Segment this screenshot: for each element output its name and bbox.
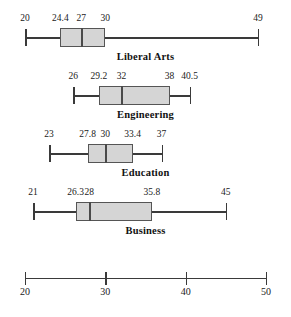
axis-tick	[105, 272, 106, 285]
median-line	[89, 202, 90, 221]
axis-tick-label: 50	[261, 286, 271, 297]
median-line	[121, 86, 122, 105]
iqr-box	[88, 144, 133, 163]
category-label-text: Education	[122, 167, 170, 178]
boxplot-panel: 2024.4273049Liberal Arts	[0, 13, 291, 65]
value-label: 35.8	[144, 187, 161, 198]
axis-tick-label: 40	[181, 286, 191, 297]
value-label: 49	[253, 13, 263, 24]
min-cap	[73, 87, 75, 104]
boxplot-panel: 2126.32835.845Business	[0, 187, 291, 239]
boxplot-panel: 2327.83033.437Education	[0, 129, 291, 181]
value-label: 27	[76, 13, 86, 24]
value-label: 23	[44, 129, 54, 140]
axis-tick	[186, 272, 187, 285]
category-label-text: Liberal Arts	[117, 51, 175, 62]
category-label: Business	[0, 225, 291, 236]
upper-whisker	[170, 95, 190, 97]
category-label: Engineering	[0, 109, 291, 120]
value-label: 20	[20, 13, 30, 24]
value-label: 40.5	[181, 71, 198, 82]
value-label: 24.4	[52, 13, 69, 24]
box-plot	[0, 200, 291, 224]
box-plot	[0, 26, 291, 50]
upper-whisker	[152, 211, 226, 213]
iqr-box	[76, 202, 152, 221]
box-plot	[0, 142, 291, 166]
upper-whisker	[133, 153, 162, 155]
value-label: 45	[221, 187, 231, 198]
box-plot	[0, 84, 291, 108]
lower-whisker	[33, 211, 76, 213]
category-label: Education	[0, 167, 291, 178]
value-label: 27.8	[79, 129, 96, 140]
iqr-box	[99, 86, 170, 105]
value-label: 29.2	[91, 71, 108, 82]
max-cap	[162, 145, 164, 162]
value-label-row: 2327.83033.437	[0, 129, 291, 142]
lower-whisker	[49, 153, 88, 155]
median-line	[81, 28, 82, 47]
axis-tick	[25, 272, 26, 285]
lower-whisker	[25, 37, 60, 39]
value-label: 30	[101, 13, 111, 24]
value-label-row: 2629.2323840.5	[0, 71, 291, 84]
axis-tick-label: 20	[20, 286, 30, 297]
clipped-header-text	[18, 0, 288, 4]
max-cap	[190, 87, 192, 104]
category-label: Liberal Arts	[0, 51, 291, 62]
boxplot-panel: 2629.2323840.5Engineering	[0, 71, 291, 123]
value-label: 33.4	[124, 129, 141, 140]
median-line	[105, 144, 106, 163]
category-label-text: Business	[125, 225, 165, 236]
value-label: 21	[28, 187, 38, 198]
axis-tick-label: 30	[100, 286, 110, 297]
value-label: 32	[117, 71, 127, 82]
lower-whisker	[73, 95, 99, 97]
value-label-row: 2126.32835.845	[0, 187, 291, 200]
min-cap	[25, 29, 27, 46]
axis-tick	[266, 272, 267, 285]
value-label: 30	[101, 129, 111, 140]
max-cap	[258, 29, 260, 46]
value-label: 28	[85, 187, 95, 198]
boxplot-figure: 2024.4273049Liberal Arts2629.2323840.5En…	[0, 0, 291, 317]
min-cap	[49, 145, 51, 162]
max-cap	[226, 203, 228, 220]
x-axis: 20304050	[0, 270, 291, 304]
value-label: 26	[68, 71, 78, 82]
value-label-row: 2024.4273049	[0, 13, 291, 26]
category-label-text: Engineering	[117, 109, 174, 120]
axis-line	[25, 278, 266, 279]
upper-whisker	[105, 37, 258, 39]
value-label: 38	[165, 71, 175, 82]
value-label: 37	[157, 129, 167, 140]
iqr-box	[60, 28, 105, 47]
min-cap	[33, 203, 35, 220]
value-label: 26.3	[67, 187, 84, 198]
